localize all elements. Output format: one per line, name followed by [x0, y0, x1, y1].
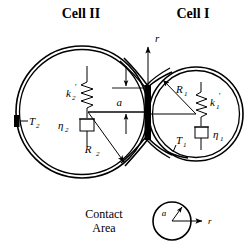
k2-label-prime: ': [75, 83, 77, 92]
t1-leader-line: [173, 145, 176, 152]
r1-label-sub: 1: [184, 90, 188, 98]
diagram-canvas: Cell II Cell I: [0, 0, 249, 249]
k2-label-sub: 2: [72, 94, 76, 102]
eta2-label: η: [58, 119, 63, 131]
t2-label: T: [29, 115, 36, 127]
caption-line-two: Area: [92, 221, 116, 235]
eta1-label: η: [213, 128, 218, 140]
cell-one-viscoelastic-element: k 1 ' η 1: [194, 82, 224, 150]
eta2-cylinder: [80, 119, 94, 131]
cell-two-title: Cell II: [62, 6, 101, 21]
t2-membrane-marker: [14, 115, 20, 127]
t2-label-sub: 2: [36, 122, 40, 130]
t1-label-sub: 1: [183, 141, 187, 149]
k1-label-prime: ': [219, 92, 221, 101]
eta2-label-sub: 2: [65, 126, 69, 134]
junction-cusp-upper-left-inner: [120, 61, 145, 87]
k1-label-sub: 1: [216, 103, 220, 111]
cell-two-viscoelastic-element: k 2 ' η 2: [58, 66, 95, 146]
contact-radius-label: a: [117, 96, 123, 108]
cell-contact-diagram: Cell II Cell I: [0, 0, 249, 249]
inset-a-arrow: [172, 207, 182, 221]
junction-cusp-lower-left-inner: [121, 138, 145, 163]
k2-spring-coil: [81, 82, 93, 108]
r1-label: R: [175, 83, 183, 95]
cell-one-title: Cell I: [176, 6, 209, 21]
eta1-cylinder: [195, 127, 208, 138]
r2-label: R: [84, 143, 92, 155]
caption-line-one: Contact: [85, 207, 123, 221]
r-axis-label: r: [155, 32, 160, 44]
inset-r-label: r: [208, 216, 212, 226]
contact-area-inset: a r: [153, 202, 212, 240]
r2-label-sub: 2: [96, 150, 100, 158]
inset-a-label: a: [162, 208, 167, 218]
k1-spring-coil: [196, 92, 207, 117]
eta1-label-sub: 1: [220, 135, 224, 143]
t1-label: T: [176, 134, 183, 146]
